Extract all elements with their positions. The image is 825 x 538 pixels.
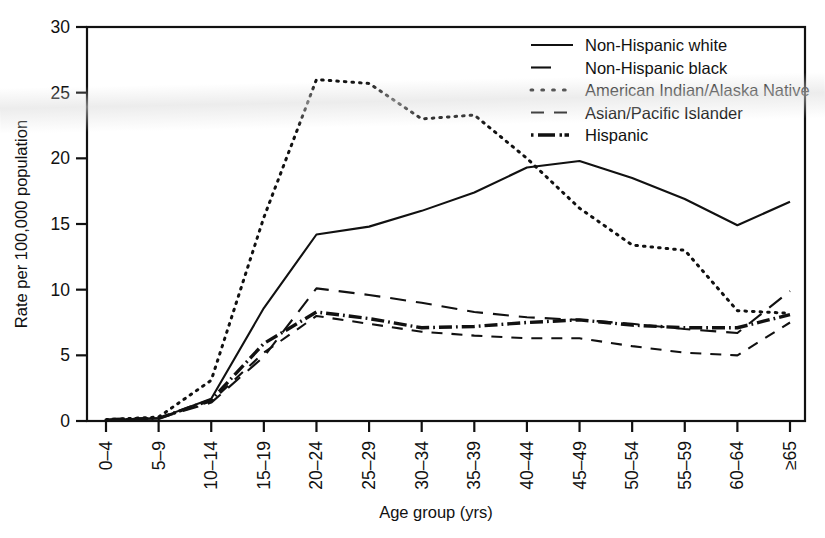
legend-item-label: Hispanic — [585, 126, 648, 144]
y-axis-tick-label: 20 — [51, 148, 71, 168]
y-axis-tick-label: 25 — [51, 83, 70, 103]
y-axis-tick-label: 5 — [60, 345, 70, 365]
x-axis-tick-label: 35–39 — [464, 441, 484, 490]
x-axis-tick-label: ≥65 — [780, 441, 800, 470]
line-chart: 051015202530 0–45–910–1415–1920–2425–293… — [0, 0, 825, 538]
y-axis-tick-label: 0 — [60, 411, 70, 431]
y-axis: 051015202530 — [51, 17, 87, 431]
y-axis-tick-label: 30 — [51, 17, 71, 37]
x-axis-tick-label: 25–29 — [359, 441, 379, 490]
x-axis-tick-label: 30–34 — [412, 441, 432, 490]
series-line — [106, 80, 790, 420]
x-axis-tick-label: 55–59 — [675, 441, 695, 490]
x-axis: 0–45–910–1415–1920–2425–2930–3435–3940–4… — [96, 421, 800, 490]
y-axis-tick-label: 10 — [51, 280, 71, 300]
chart-figure: 051015202530 0–45–910–1415–1920–2425–293… — [0, 0, 825, 538]
x-axis-tick-label: 10–14 — [201, 441, 221, 490]
x-axis-tick-label: 5–9 — [149, 441, 169, 470]
data-series-group — [106, 80, 790, 420]
y-axis-title: Rate per 100,000 population — [12, 120, 30, 328]
x-axis-tick-label: 40–44 — [517, 441, 537, 490]
legend-item-label: Non-Hispanic black — [585, 59, 728, 77]
legend-item-label: American Indian/Alaska Native — [585, 81, 810, 99]
x-axis-title: Age group (yrs) — [379, 503, 493, 521]
x-axis-tick-label: 15–19 — [254, 441, 274, 490]
x-axis-tick-label: 50–54 — [622, 441, 642, 490]
x-axis-tick-label: 0–4 — [96, 441, 116, 470]
legend-item-label: Non-Hispanic white — [585, 36, 727, 54]
chart-legend: Non-Hispanic whiteNon-Hispanic blackAmer… — [531, 36, 810, 144]
legend-item-label: Asian/Pacific Islander — [585, 104, 743, 122]
x-axis-tick-label: 45–49 — [570, 441, 590, 490]
x-axis-tick-label: 60–64 — [727, 441, 747, 490]
y-axis-tick-label: 15 — [51, 214, 70, 234]
x-axis-tick-label: 20–24 — [306, 441, 326, 490]
